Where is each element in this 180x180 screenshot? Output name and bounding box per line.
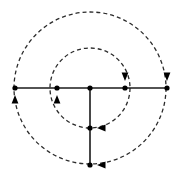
concentric-circles-figure xyxy=(0,0,180,180)
diagram-canvas xyxy=(0,0,180,180)
node-inner-right xyxy=(122,85,127,90)
node-outer-left xyxy=(12,85,17,90)
node-outer-bottom xyxy=(87,162,92,167)
node-center xyxy=(87,85,92,90)
node-outer-right xyxy=(164,85,169,90)
node-inner-bottom xyxy=(87,125,92,130)
node-inner-left xyxy=(54,85,59,90)
